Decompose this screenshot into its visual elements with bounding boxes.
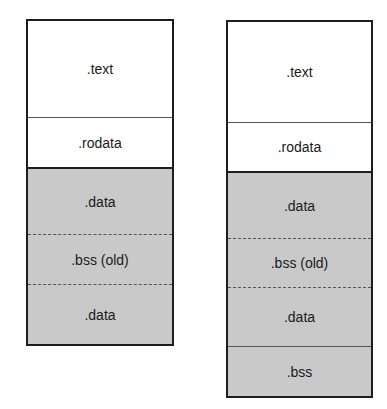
section-label: .bss (old) bbox=[71, 252, 129, 268]
right-bss-old-section: .bss (old) bbox=[228, 238, 371, 287]
left-rodata-section: .rodata bbox=[28, 117, 172, 167]
right-rodata-section: .rodata bbox=[228, 122, 371, 171]
section-label: .data bbox=[284, 198, 315, 214]
right-bss-section: .bss bbox=[228, 346, 371, 396]
right-data-section-2: .data bbox=[228, 287, 371, 346]
section-label: .data bbox=[84, 194, 115, 210]
section-label: .rodata bbox=[78, 135, 122, 151]
left-data-section-2: .data bbox=[28, 284, 172, 344]
section-label: .text bbox=[286, 64, 312, 80]
left-memory-layout: .text .rodata .data .bss (old) .data bbox=[26, 19, 174, 346]
section-label: .bss (old) bbox=[271, 255, 329, 271]
section-label: .data bbox=[84, 307, 115, 323]
right-data-section: .data bbox=[228, 171, 371, 238]
right-text-section: .text bbox=[228, 22, 371, 122]
left-data-section: .data bbox=[28, 167, 172, 234]
right-memory-layout: .text .rodata .data .bss (old) .data .bs… bbox=[226, 20, 373, 398]
left-text-section: .text bbox=[28, 21, 172, 117]
section-label: .bss bbox=[287, 364, 313, 380]
section-label: .rodata bbox=[278, 139, 322, 155]
section-label: .data bbox=[284, 309, 315, 325]
section-label: .text bbox=[87, 61, 113, 77]
left-bss-old-section: .bss (old) bbox=[28, 234, 172, 284]
